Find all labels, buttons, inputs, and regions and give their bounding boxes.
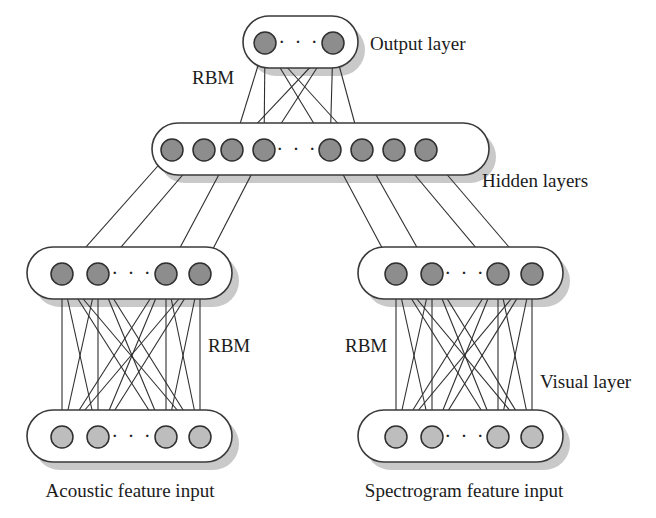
connection-edges — [62, 43, 532, 437]
neuron-node-hidden-top — [351, 139, 373, 161]
neuron-node-visible-right — [521, 426, 543, 448]
network-diagram: · · ·· · ·· · ·· · ·· · ·· · · RBMOutput… — [0, 0, 656, 518]
ellipsis-output: · · · — [278, 30, 319, 54]
ellipsis-hidden-top: · · · — [276, 137, 317, 161]
annotation-rbm-left: RBM — [208, 335, 250, 356]
neuron-node-visible-left — [87, 426, 109, 448]
neuron-node-hidden-top — [161, 139, 183, 161]
neuron-node-hidden-top — [383, 139, 405, 161]
neuron-node-hidden-top — [319, 139, 341, 161]
neuron-node-hidden-top — [253, 139, 275, 161]
neuron-node-hidden-right — [385, 263, 407, 285]
ellipsis-visible-left: · · · — [111, 424, 152, 448]
neuron-node-hidden-left — [189, 263, 211, 285]
neuron-node-visible-right — [385, 426, 407, 448]
annotation-acoustic-caption: Acoustic feature input — [46, 480, 216, 501]
neuron-node-hidden-top — [415, 139, 437, 161]
neuron-node-hidden-top — [193, 139, 215, 161]
neuron-node-hidden-top — [221, 139, 243, 161]
neuron-node-hidden-right — [421, 263, 443, 285]
neuron-node-output — [322, 32, 344, 54]
neuron-node-visible-right — [487, 426, 509, 448]
neuron-node-hidden-left — [87, 263, 109, 285]
annotation-output-layer: Output layer — [370, 33, 466, 54]
neuron-node-hidden-right — [487, 263, 509, 285]
annotation-rbm-top: RBM — [192, 67, 234, 88]
neuron-node-visible-left — [155, 426, 177, 448]
neuron-node-hidden-left — [51, 263, 73, 285]
ellipsis-visible-right: · · · — [444, 424, 485, 448]
annotation-spectrogram-caption: Spectrogram feature input — [365, 480, 564, 501]
annotation-hidden-layers: Hidden layers — [482, 170, 588, 191]
ellipsis-hidden-left: · · · — [111, 261, 152, 285]
annotation-visual-layer: Visual layer — [540, 371, 632, 392]
neuron-node-visible-right — [421, 426, 443, 448]
neuron-node-visible-left — [189, 426, 211, 448]
ellipsis-hidden-right: · · · — [444, 261, 485, 285]
neuron-node-hidden-right — [521, 263, 543, 285]
annotation-rbm-right: RBM — [345, 335, 387, 356]
neuron-node-output — [254, 32, 276, 54]
neuron-node-hidden-left — [155, 263, 177, 285]
neuron-node-visible-left — [51, 426, 73, 448]
network-diagram-canvas: · · ·· · ·· · ·· · ·· · ·· · · RBMOutput… — [0, 0, 656, 518]
